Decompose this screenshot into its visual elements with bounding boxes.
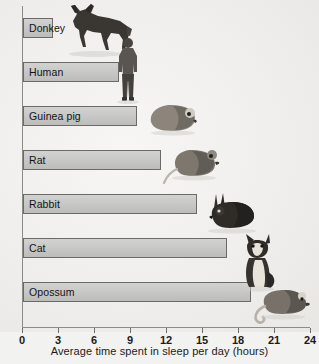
x-axis-tick bbox=[94, 328, 95, 333]
bar-label: Cat bbox=[29, 242, 46, 254]
bar-label: Rat bbox=[29, 154, 46, 166]
x-axis-tick bbox=[22, 328, 23, 333]
x-axis-tick bbox=[202, 328, 203, 333]
bar-label: Opossum bbox=[29, 286, 75, 298]
sleep-time-bar-chart: 03691215182124 DonkeyHumanGuinea pigRatR… bbox=[0, 0, 319, 364]
bar-donkey: Donkey bbox=[23, 18, 53, 38]
x-axis-title: Average time spent in sleep per day (hou… bbox=[0, 345, 319, 357]
x-axis-tick bbox=[274, 328, 275, 333]
bar-guinea-pig: Guinea pig bbox=[23, 106, 137, 126]
bar-cat: Cat bbox=[23, 238, 227, 258]
bar-rabbit: Rabbit bbox=[23, 194, 197, 214]
x-axis-tick bbox=[238, 328, 239, 333]
x-axis-tick bbox=[166, 328, 167, 333]
bar-human: Human bbox=[23, 62, 119, 82]
bar-label: Human bbox=[29, 66, 63, 78]
bar-opossum: Opossum bbox=[23, 282, 251, 302]
x-axis-tick bbox=[130, 328, 131, 333]
plot-area: 03691215182124 DonkeyHumanGuinea pigRatR… bbox=[22, 6, 310, 328]
x-axis-tick bbox=[310, 328, 311, 333]
bar-label: Guinea pig bbox=[29, 110, 81, 122]
bar-label: Rabbit bbox=[29, 198, 60, 210]
bar-rat: Rat bbox=[23, 150, 161, 170]
bar-label: Donkey bbox=[29, 22, 65, 34]
x-axis-tick bbox=[58, 328, 59, 333]
